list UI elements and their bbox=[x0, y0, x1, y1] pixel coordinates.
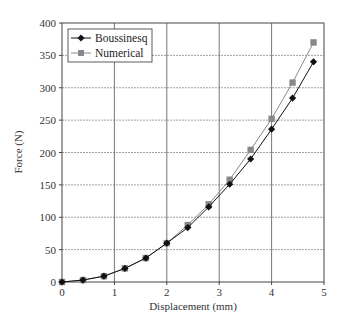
data-point bbox=[289, 79, 295, 85]
x-tick-label: 0 bbox=[59, 286, 65, 298]
data-point bbox=[247, 147, 253, 153]
x-axis-label: Displacement (mm) bbox=[149, 300, 237, 313]
x-tick-label: 1 bbox=[112, 286, 118, 298]
legend: Boussinesq Numerical bbox=[68, 29, 152, 62]
data-point bbox=[268, 126, 275, 133]
legend-label-boussinesq: Boussinesq bbox=[95, 32, 148, 45]
x-axis-ticks: 012345 bbox=[59, 282, 327, 298]
series-numerical bbox=[59, 39, 317, 285]
y-tick-label: 300 bbox=[40, 82, 57, 94]
data-point bbox=[289, 95, 296, 102]
y-tick-label: 400 bbox=[40, 17, 57, 29]
data-series bbox=[58, 39, 317, 285]
square-marker-icon bbox=[78, 50, 84, 56]
data-point bbox=[310, 39, 316, 45]
y-tick-label: 200 bbox=[40, 147, 57, 159]
force-displacement-chart: 050100150200250300350400 012345 Displace… bbox=[0, 0, 340, 326]
y-axis-label: Force (N) bbox=[12, 130, 25, 173]
y-tick-label: 250 bbox=[40, 114, 57, 126]
x-tick-label: 5 bbox=[321, 286, 327, 298]
y-tick-label: 100 bbox=[40, 211, 57, 223]
y-tick-label: 0 bbox=[51, 276, 57, 288]
y-tick-label: 50 bbox=[45, 244, 57, 256]
legend-label-numerical: Numerical bbox=[95, 47, 144, 59]
y-tick-label: 350 bbox=[40, 49, 57, 61]
x-tick-label: 3 bbox=[216, 286, 222, 298]
data-point bbox=[310, 58, 317, 65]
y-axis-ticks: 050100150200250300350400 bbox=[40, 17, 63, 288]
x-tick-label: 2 bbox=[164, 286, 170, 298]
y-tick-label: 150 bbox=[40, 179, 57, 191]
series-boussinesq bbox=[58, 58, 317, 285]
x-tick-label: 4 bbox=[269, 286, 275, 298]
data-point bbox=[268, 116, 274, 122]
